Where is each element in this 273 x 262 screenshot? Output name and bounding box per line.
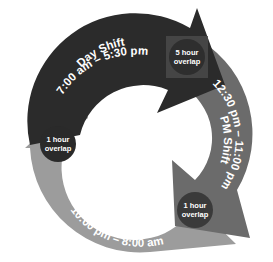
overlap-badge-night-day: 1 hour overlap — [40, 126, 76, 162]
svg-text:1 hour: 1 hour — [184, 201, 207, 210]
overlap-badge-day-pm: 5 hour overlap — [166, 36, 208, 78]
overlap-badge-pm-night: 1 hour overlap — [177, 192, 213, 228]
shift-cycle-diagram: Day Shift 7:00 am – 5:30 pm PM Shift 12:… — [0, 0, 273, 262]
svg-text:overlap: overlap — [182, 210, 209, 219]
svg-text:overlap: overlap — [45, 144, 72, 153]
svg-text:1 hour: 1 hour — [47, 135, 70, 144]
svg-text:5 hour: 5 hour — [176, 48, 199, 57]
svg-text:overlap: overlap — [174, 57, 201, 66]
